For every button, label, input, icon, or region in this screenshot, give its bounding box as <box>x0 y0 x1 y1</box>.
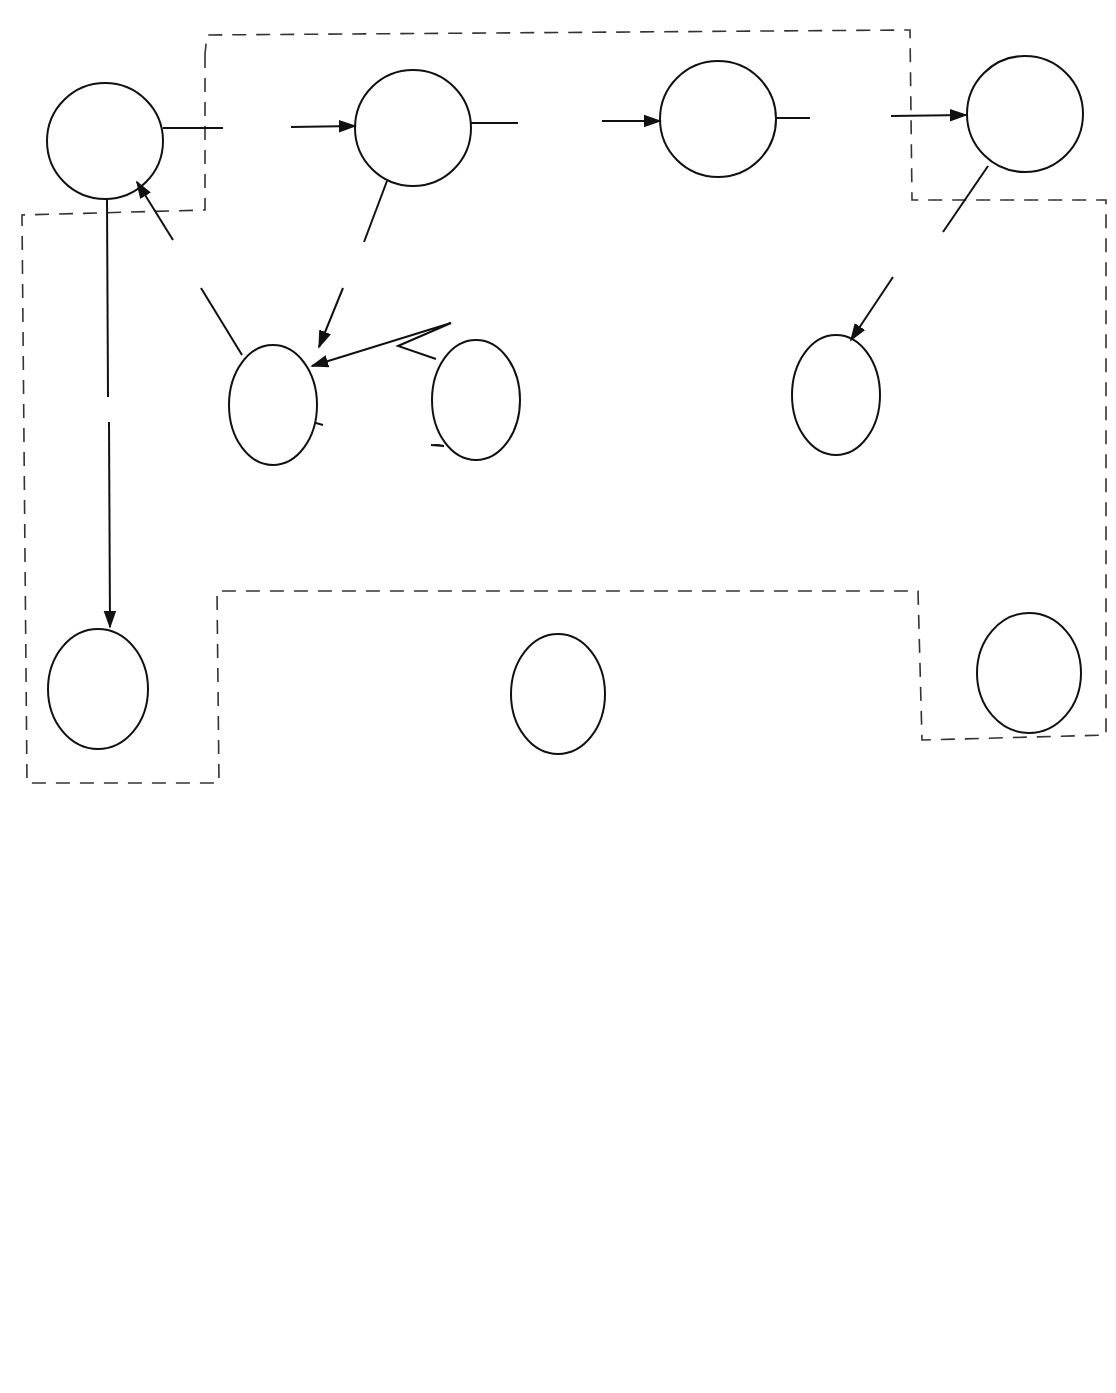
flow-orders <box>163 126 355 128</box>
flow-purchase-orders <box>776 115 966 118</box>
node-shipping-department <box>229 345 317 465</box>
node-inventory <box>432 340 520 460</box>
flow-payments <box>107 199 110 627</box>
flow-order-details-sales-purchasing <box>471 121 660 123</box>
flow-order-shipping-to-inventory <box>316 423 444 446</box>
flow-shipment-packing-slip-from-supplier <box>851 166 988 340</box>
node-accounts-receivable <box>48 629 148 749</box>
node-customer <box>47 83 163 199</box>
organization-boundary <box>22 30 1106 783</box>
node-purchasing <box>660 61 776 177</box>
node-bank <box>511 634 605 754</box>
node-sales <box>355 70 471 186</box>
data-flow-diagrams <box>0 0 1116 1393</box>
node-supplier <box>967 56 1083 172</box>
node-receiving-department <box>792 335 880 455</box>
flow-widgets-inventory-to-shipping <box>312 323 451 366</box>
diagram-a <box>22 30 1106 783</box>
flow-order-details-sales-shipping <box>319 181 387 347</box>
flow-shipment-packing-slip-to-customer <box>137 182 242 355</box>
node-accounts-payable <box>977 613 1081 733</box>
